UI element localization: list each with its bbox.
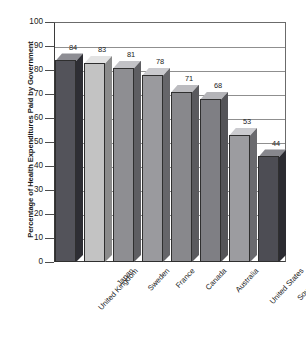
x-axis-category-label: Canada — [204, 267, 228, 292]
x-axis-category-label: Australia — [234, 267, 260, 294]
x-axis-category-labels: United KingdomJapanSwedenFranceCanadaAus… — [0, 0, 306, 356]
bar-chart: Percentage of Health Expenditures Paid b… — [0, 0, 306, 356]
x-axis-category-label: Sweden — [147, 267, 171, 292]
x-axis-category-label: France — [175, 267, 197, 289]
